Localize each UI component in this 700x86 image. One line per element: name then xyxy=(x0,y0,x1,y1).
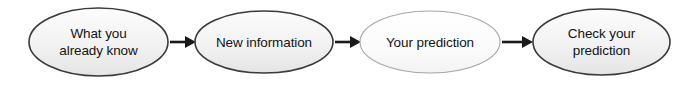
node-shape-new-information[interactable] xyxy=(195,11,333,73)
node-shape-your-prediction[interactable] xyxy=(360,11,500,73)
arrow-connector-1 xyxy=(170,36,196,48)
arrow-head-2 xyxy=(350,36,361,48)
arrow-connector-2 xyxy=(335,36,361,48)
node-shape-check-your-prediction[interactable] xyxy=(533,9,670,75)
prediction-flow-diagram: What you already know New information Yo… xyxy=(0,0,700,86)
flow-diagram-canvas xyxy=(0,0,700,86)
arrow-connector-3 xyxy=(502,36,533,48)
arrow-head-3 xyxy=(522,36,533,48)
node-shape-what-you-already-know[interactable] xyxy=(29,8,168,76)
